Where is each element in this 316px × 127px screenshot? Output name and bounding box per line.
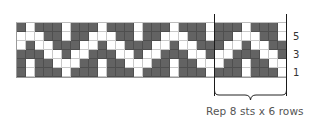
chart-cell	[242, 41, 251, 50]
chart-cell	[170, 41, 179, 50]
chart-cell	[98, 68, 107, 77]
chart-cell	[98, 41, 107, 50]
chart-cell	[116, 32, 125, 41]
chart-cell	[233, 32, 242, 41]
chart-cell	[71, 41, 80, 50]
chart-cell	[269, 23, 278, 32]
chart-cell	[53, 68, 62, 77]
chart-cell	[224, 41, 233, 50]
chart-cell	[62, 59, 71, 68]
chart-cell	[170, 50, 179, 59]
chart-cell	[89, 68, 98, 77]
chart-cell	[44, 32, 53, 41]
chart-cell	[233, 68, 242, 77]
chart-cell	[53, 32, 62, 41]
chart-cell	[89, 41, 98, 50]
chart-cell	[224, 59, 233, 68]
chart-cell	[125, 32, 134, 41]
chart-cell	[260, 59, 269, 68]
chart-cell	[161, 32, 170, 41]
chart-cell	[107, 50, 116, 59]
chart-cell	[62, 68, 71, 77]
chart-cell	[152, 32, 161, 41]
chart-cell	[44, 23, 53, 32]
chart-cell	[188, 68, 197, 77]
chart-cell	[80, 68, 89, 77]
chart-cell	[269, 50, 278, 59]
chart-cell	[251, 68, 260, 77]
chart-cell	[44, 50, 53, 59]
chart-cell	[242, 32, 251, 41]
chart-cell	[62, 23, 71, 32]
chart-cell	[134, 50, 143, 59]
row-label-5: 5	[293, 32, 299, 42]
chart-cell	[215, 68, 224, 77]
chart-cell	[71, 59, 80, 68]
chart-cell	[161, 68, 170, 77]
chart-cell	[269, 68, 278, 77]
chart-cell	[224, 68, 233, 77]
chart-cell	[71, 32, 80, 41]
chart-cell	[35, 41, 44, 50]
chart-cell	[161, 23, 170, 32]
chart-cell	[233, 23, 242, 32]
chart-cell	[62, 32, 71, 41]
chart-cell	[35, 23, 44, 32]
chart-cell	[242, 68, 251, 77]
chart-cell	[35, 59, 44, 68]
chart-cell	[242, 59, 251, 68]
chart-cell	[260, 41, 269, 50]
chart-cell	[71, 23, 80, 32]
chart-cell	[215, 41, 224, 50]
chart-cell	[152, 59, 161, 68]
chart-cell	[242, 23, 251, 32]
chart-grid	[17, 23, 287, 77]
chart-cell	[98, 32, 107, 41]
chart-cell	[251, 41, 260, 50]
chart-cell	[116, 68, 125, 77]
chart-cell	[80, 41, 89, 50]
repeat-caption: Rep 8 sts x 6 rows	[206, 105, 304, 117]
chart-cell	[260, 23, 269, 32]
chart-cell	[98, 23, 107, 32]
chart-cell	[251, 59, 260, 68]
chart-cell	[134, 32, 143, 41]
chart-cell	[53, 50, 62, 59]
chart-cell	[179, 23, 188, 32]
chart-cell	[80, 32, 89, 41]
chart-cell	[116, 59, 125, 68]
chart-cell	[143, 23, 152, 32]
chart-cell	[125, 23, 134, 32]
chart-cell	[197, 41, 206, 50]
chart-cell	[242, 50, 251, 59]
chart-cell	[251, 23, 260, 32]
chart-cell	[98, 59, 107, 68]
chart-cell	[188, 59, 197, 68]
chart-cell	[215, 23, 224, 32]
repeat-bracket-icon	[214, 90, 287, 102]
chart-cell	[26, 32, 35, 41]
chart-cell	[152, 23, 161, 32]
chart-cell	[251, 32, 260, 41]
chart-cell	[170, 59, 179, 68]
chart-cell	[197, 32, 206, 41]
chart-cell	[161, 50, 170, 59]
chart-cell	[179, 68, 188, 77]
repeat-left-line	[214, 14, 215, 96]
chart-cell	[17, 41, 26, 50]
chart-cell	[17, 23, 26, 32]
chart-cell	[188, 50, 197, 59]
chart-cell	[152, 41, 161, 50]
chart-cell	[233, 41, 242, 50]
chart-cell	[107, 32, 116, 41]
chart-cell	[116, 50, 125, 59]
chart-cell	[17, 68, 26, 77]
chart-cell	[260, 50, 269, 59]
chart-cell	[26, 59, 35, 68]
chart-cell	[17, 59, 26, 68]
chart-cell	[71, 50, 80, 59]
chart-cell	[188, 41, 197, 50]
chart-cell	[197, 50, 206, 59]
chart-cell	[188, 32, 197, 41]
chart-cell	[179, 59, 188, 68]
